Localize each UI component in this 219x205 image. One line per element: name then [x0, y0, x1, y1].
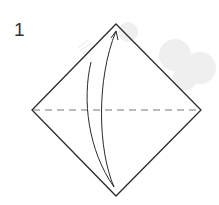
fold-arrow-right-curve — [102, 31, 117, 187]
watermark-cloud — [118, 22, 216, 90]
origami-diagram — [0, 0, 219, 205]
fold-arrow-left-curve — [87, 62, 114, 187]
watermark-lines — [78, 40, 94, 54]
